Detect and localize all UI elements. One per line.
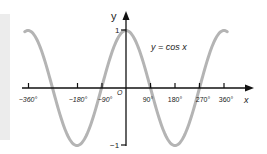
x-tick-label: 90°	[143, 96, 154, 103]
x-tick-label: 270°	[196, 96, 211, 103]
function-label: y = cos x	[150, 42, 187, 52]
x-tick-label: −180°	[69, 96, 88, 103]
origin-label: O	[117, 89, 123, 96]
x-tick-label: −360°	[19, 96, 38, 103]
x-tick-label: −90°	[98, 96, 113, 103]
x-tick-label: 360°	[219, 96, 234, 103]
cosine-chart: −360° −180° −90° 90° 180° 270° 360° O 1 …	[0, 0, 267, 154]
y-tick-label: 1	[115, 26, 120, 35]
x-axis-arrow-icon	[245, 85, 254, 92]
y-axis-arrow-icon	[123, 11, 130, 20]
x-axis-label: x	[243, 95, 249, 105]
y-tick-label: −1	[110, 141, 120, 150]
y-axis-label: y	[111, 10, 117, 22]
x-tick-label: 180°	[168, 96, 183, 103]
